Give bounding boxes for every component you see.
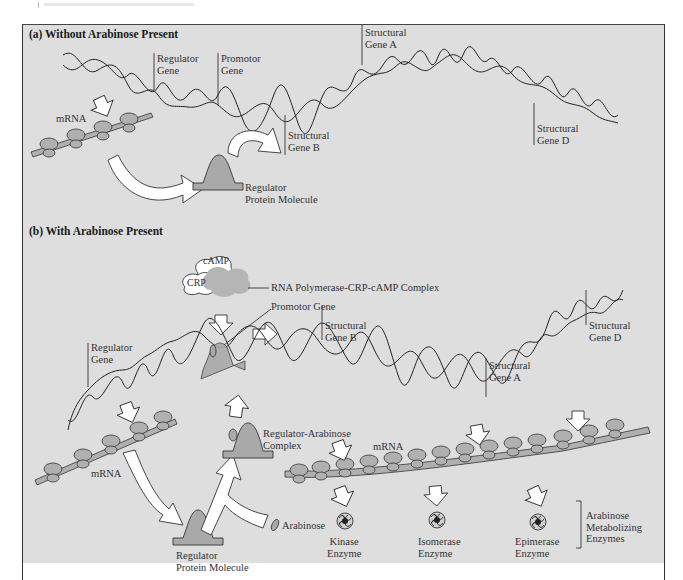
part-a-title: (a) Without Arabinose Present [29, 28, 178, 40]
label-line: Enzyme [418, 548, 461, 560]
label-line: Regulator-Arabinose [263, 428, 351, 440]
dna-helix-b [68, 290, 623, 430]
arrow-mrna-to-protein-a [108, 155, 203, 203]
label-line: Regulator [91, 342, 132, 354]
arrow-complex-to-dna [223, 393, 250, 418]
label-line: Gene B [288, 142, 329, 154]
label-line: Isomerase [418, 536, 461, 548]
bound-regulator-protein [201, 343, 245, 379]
label-structural-gene-d-a: Structural Gene D [537, 123, 578, 146]
arrow-arabinose-binding [201, 455, 268, 535]
page-header-faint [22, 2, 202, 8]
label-regulator-gene-a: Regulator Gene [157, 53, 198, 76]
label-structural-gene-b-b: Structural Gene B [325, 320, 366, 343]
operon-diagram [23, 25, 664, 563]
isomerase-enzyme-icon [429, 512, 445, 528]
mrna-strand-a [31, 113, 153, 157]
regulator-protein-a [193, 155, 243, 190]
label-line: Kinase [327, 536, 361, 548]
arrow-mrna-to-protein-b [123, 450, 183, 525]
label-line: Metabolizing [586, 522, 642, 534]
label-line: Gene A [489, 372, 530, 384]
label-isomerase-enzyme: Isomerase Enzyme [418, 536, 461, 559]
figure-panel: (a) Without Arabinose Present Regulator … [23, 25, 664, 563]
label-mrna-b-left: mRNA [91, 468, 121, 480]
label-regulator-arabinose-complex: Regulator-Arabinose Complex [263, 428, 351, 451]
arrow-mrna-to-epimerase [522, 483, 552, 511]
label-line: Enzymes [586, 533, 642, 545]
label-line: Gene A [365, 39, 406, 51]
label-line: Structural [589, 320, 630, 332]
label-line: Enzyme [327, 548, 361, 560]
label-line: Gene [221, 65, 261, 77]
label-line: Promotor [221, 53, 261, 65]
label-line: Gene D [537, 135, 578, 147]
label-line: Structural [325, 320, 366, 332]
kinase-enzyme-icon [337, 513, 353, 529]
label-line: Epimerase [515, 536, 559, 548]
header-divider [38, 2, 39, 8]
label-structural-gene-a-a: Structural Gene A [365, 27, 406, 50]
label-line: Structural [288, 130, 329, 142]
arrow-protein-to-dna-a [228, 128, 281, 157]
label-epimerase-enzyme: Epimerase Enzyme [515, 536, 559, 559]
label-line: Gene D [589, 332, 630, 344]
label-arabinose-metabolizing-enzymes: Arabinose Metabolizing Enzymes [586, 510, 642, 545]
label-camp: cAMP [203, 255, 229, 267]
label-promotor-gene-a: Promotor Gene [221, 53, 261, 76]
epimerase-enzyme-icon [530, 514, 546, 530]
label-regulator-gene-b: Regulator Gene [91, 342, 132, 365]
label-mrna-b-right: mRNA [373, 441, 403, 453]
header-text-faint [44, 3, 194, 6]
arrow-complex-to-promotor [209, 315, 233, 335]
label-line: Regulator [176, 550, 249, 562]
label-structural-gene-d-b: Structural Gene D [589, 320, 630, 343]
label-structural-gene-a-b: Structural Gene A [489, 360, 530, 383]
arrow-mrna-to-isomerase [423, 485, 449, 507]
label-crp: CRP [187, 277, 206, 289]
label-arabinose: Arabinose [282, 520, 325, 532]
label-line: Arabinose [586, 510, 642, 522]
label-kinase-enzyme: Kinase Enzyme [327, 536, 361, 559]
label-line: Structural [489, 360, 530, 372]
gene-ticks-a [154, 25, 534, 155]
figure-frame: (a) Without Arabinose Present Regulator … [22, 24, 665, 580]
complex-arabinose [229, 429, 237, 441]
arrow-mrna-to-kinase [328, 483, 357, 510]
dna-helix-a [63, 47, 618, 134]
promotor-pointer [224, 309, 271, 345]
label-line: Structural [365, 27, 406, 39]
label-promotor-gene-b: Promotor Gene [271, 301, 335, 313]
arrow-dna-to-mrna-a [88, 93, 118, 121]
label-regulator-protein-a: Regulator Protein Molecule [245, 182, 318, 205]
label-line: Gene [91, 354, 132, 366]
label-line: Gene B [325, 332, 366, 344]
label-line: Structural [537, 123, 578, 135]
bound-arabinose [210, 345, 216, 357]
label-structural-gene-b-a: Structural Gene B [288, 130, 329, 153]
label-line: Enzyme [515, 548, 559, 560]
label-line: Protein Molecule [176, 562, 249, 574]
enzymes-bracket [576, 501, 581, 548]
label-mrna-a: mRNA [56, 113, 86, 125]
label-line: Regulator [157, 53, 198, 65]
label-regulator-protein-b: Regulator Protein Molecule [176, 550, 249, 573]
arabinose-molecule [270, 518, 281, 531]
label-rna-polymerase-complex: RNA Polymerase-CRP-cAMP Complex [271, 282, 439, 294]
label-line: Gene [157, 65, 198, 77]
label-line: Complex [263, 440, 351, 452]
label-line: Protein Molecule [245, 194, 318, 206]
label-line: Regulator [245, 182, 318, 194]
part-b-title: (b) With Arabinose Present [29, 225, 163, 237]
